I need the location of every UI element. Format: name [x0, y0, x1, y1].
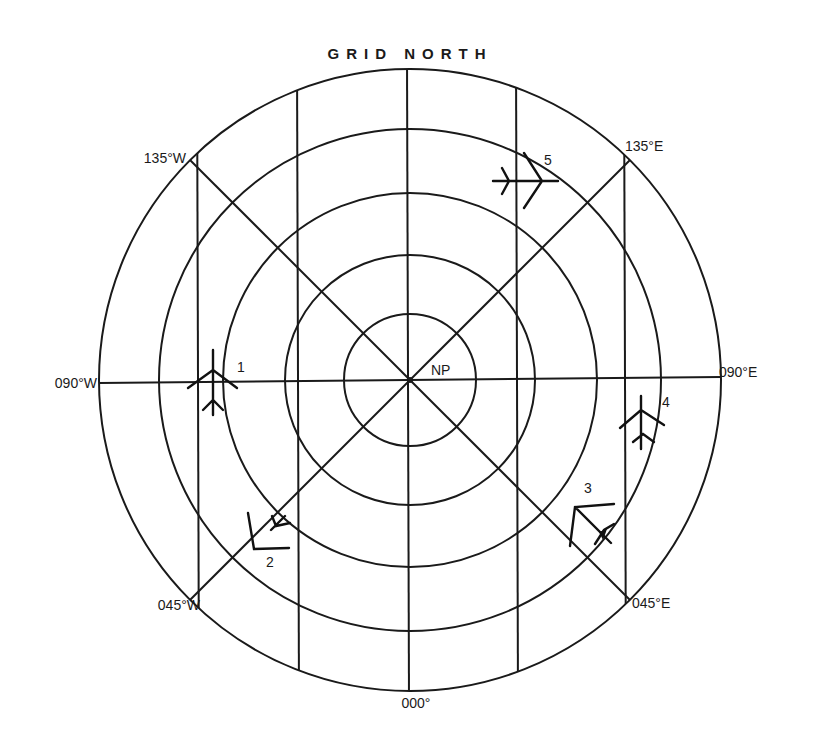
label-135w: 135°W [144, 150, 187, 166]
label-135e: 135°E [625, 138, 663, 154]
aircraft-2-label: 2 [266, 554, 274, 570]
aircraft-3-icon [570, 504, 614, 546]
label-045w: 045°W [158, 597, 201, 613]
label-045e: 045°E [632, 595, 670, 611]
aircraft-4: 4 [620, 394, 670, 449]
label-000: 000° [402, 695, 431, 711]
north-pole-dot [407, 377, 413, 383]
grid-line-4 [516, 60, 518, 700]
aircraft-1-label: 1 [237, 359, 245, 375]
aircraft-4-label: 4 [662, 394, 670, 410]
aircraft-2-icon [248, 513, 290, 549]
aircraft-5: 5 [493, 152, 558, 208]
polar-grid-diagram: GRID NORTH 135°W 135°E 090°W 090°E 045°W… [0, 0, 813, 754]
label-090w: 090°W [55, 375, 98, 391]
aircraft-5-label: 5 [544, 152, 552, 168]
aircraft-3-label: 3 [584, 480, 592, 496]
grid-north-title: GRID NORTH [328, 45, 493, 62]
north-pole-label: NP [431, 362, 450, 378]
aircraft-1-icon [188, 350, 237, 415]
label-090e: 090°E [719, 364, 757, 380]
